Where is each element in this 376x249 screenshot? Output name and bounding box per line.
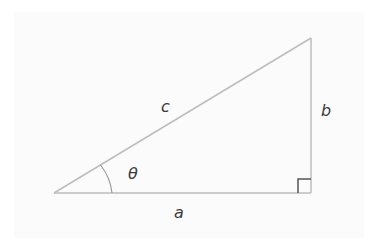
side-hypotenuse [54,38,311,193]
label-hypotenuse: c [161,97,170,116]
diagram-canvas: c b θ a [0,0,376,249]
label-adjacent: a [174,203,184,222]
triangle-figure: c b θ a [0,0,376,249]
label-opposite: b [321,101,331,120]
angle-arc [101,165,113,193]
right-angle-marker [298,179,311,193]
label-angle: θ [128,164,138,183]
